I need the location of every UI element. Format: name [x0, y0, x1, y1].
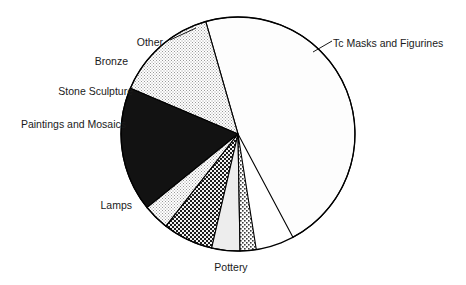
- slice-label: Other: [137, 36, 164, 48]
- slice-label: Tc Masks and Figurines: [333, 37, 443, 49]
- slice-label: Paintings and Mosaics: [21, 118, 126, 130]
- slice-label: Pottery: [214, 261, 248, 273]
- pie-slices: [121, 17, 355, 251]
- slice-label: Bronze: [95, 55, 128, 67]
- slice-label: Stone Sculpture: [58, 85, 133, 97]
- pie-chart-canvas: Tc Masks and FigurinesPotteryLampsPainti…: [0, 0, 466, 285]
- slice-label: Lamps: [100, 199, 132, 211]
- pie-chart: Tc Masks and FigurinesPotteryLampsPainti…: [0, 0, 466, 285]
